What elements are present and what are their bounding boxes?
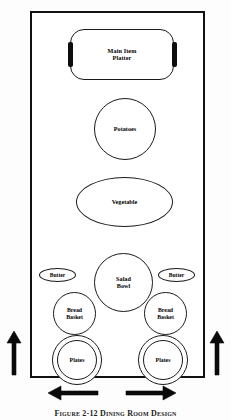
butter-right-label: Butter [169, 272, 185, 278]
platter-handle-right-icon [172, 42, 177, 67]
plates-right-label: Plates [156, 357, 171, 363]
bread-basket-right: Bread Basket [144, 292, 187, 335]
potatoes-dish: Potatoes [94, 98, 156, 160]
vegetable-dish: Vegetable [76, 177, 173, 227]
figure-caption: Figure 2-12 Dining Room Design [0, 409, 231, 420]
arrow-up-right-icon [209, 330, 225, 376]
butter-left: Butter [39, 268, 76, 282]
buffet-layout-diagram: Main Item Platter Potatoes Vegetable Sal… [0, 0, 231, 420]
plates-left-inner-ring: Plates [57, 340, 97, 380]
arrow-right-icon [125, 385, 177, 401]
main-item-platter-label: Main Item Platter [108, 48, 137, 61]
potatoes-label: Potatoes [114, 126, 136, 133]
bread-basket-right-label: Bread Basket [157, 307, 174, 320]
bread-basket-left: Bread Basket [53, 292, 96, 335]
bread-basket-left-label: Bread Basket [66, 307, 83, 320]
vegetable-label: Vegetable [112, 199, 138, 206]
salad-bowl: Salad Bowl [94, 253, 153, 312]
arrow-left-icon [47, 385, 99, 401]
plates-right: Plates [138, 335, 188, 385]
plates-left: Plates [52, 335, 102, 385]
salad-bowl-label: Salad Bowl [116, 276, 131, 289]
main-item-platter: Main Item Platter [70, 29, 174, 80]
arrow-up-left-icon [6, 330, 22, 376]
buffet-table-frame: Main Item Platter Potatoes Vegetable Sal… [30, 11, 205, 378]
plates-left-label: Plates [70, 357, 85, 363]
butter-left-label: Butter [50, 272, 66, 278]
platter-handle-left-icon [68, 42, 73, 67]
butter-right: Butter [158, 268, 195, 282]
plates-right-inner-ring: Plates [143, 340, 183, 380]
